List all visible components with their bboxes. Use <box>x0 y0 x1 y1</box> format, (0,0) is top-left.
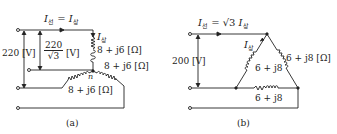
b-phase-current-label: I상 <box>244 40 254 53</box>
a-phase-voltage-unit: [V] <box>66 48 80 58</box>
b-impedance-bottom: 6 + j8 <box>255 93 283 103</box>
b-current-equation: I선 = √3 I상 <box>198 18 249 31</box>
a-caption: (a) <box>66 118 78 128</box>
a-line-voltage: 220 [V] <box>2 48 36 58</box>
a-impedance-right: 8 + j6 [Ω] <box>104 61 149 71</box>
b-impedance-left: 6 + j8 <box>255 63 283 73</box>
b-impedance-right: 6 + j8 [Ω] <box>286 53 331 63</box>
a-current-equation: I선 = I상 <box>44 14 79 27</box>
a-phase-voltage-fraction: 220√3 <box>44 40 63 61</box>
a-impedance-top: 8 + j6 [Ω] <box>97 45 142 55</box>
a-neutral-label: n <box>88 72 93 82</box>
b-line-voltage: 200 [V] <box>172 56 206 66</box>
a-impedance-left: 8 + j6 [Ω] <box>68 85 113 95</box>
b-caption: (b) <box>237 118 250 128</box>
a-phase-current-label: I상 <box>97 32 107 45</box>
